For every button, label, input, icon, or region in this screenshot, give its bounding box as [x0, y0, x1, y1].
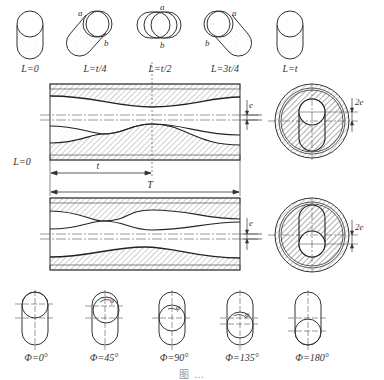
bottom-row-phi45 — [85, 290, 125, 350]
point-b-t4: b — [104, 38, 109, 48]
top-row-t2 — [137, 12, 181, 38]
upper-2e-label: 2e — [355, 97, 364, 107]
bottom-row-phi90 — [152, 290, 192, 350]
top-row-l0 — [17, 11, 43, 59]
top-label-t: L=t — [282, 63, 297, 74]
phi-symbol-45: φ — [110, 296, 114, 305]
bottom-label-phi90: Φ=90° — [160, 352, 188, 363]
phi-symbol-135: φ — [245, 310, 249, 319]
T-dim-label: T — [147, 179, 153, 190]
bottom-row-phi0 — [15, 290, 55, 350]
lower-2e-label: 2e — [355, 222, 364, 232]
point-a-3t4: a — [232, 8, 237, 18]
T-dimension — [51, 190, 239, 194]
figure-caption: 图 … — [179, 366, 205, 380]
lower-end-view — [268, 198, 358, 272]
bottom-label-phi180: Φ=180° — [295, 352, 328, 363]
point-b-t2: b — [160, 40, 165, 50]
diagram-canvas — [0, 0, 384, 380]
t-dimension — [51, 171, 151, 175]
point-a-t4: a — [78, 8, 83, 18]
upper-e-label: e — [249, 100, 253, 110]
top-label-l0: L=0 — [21, 63, 38, 74]
upper-end-view — [268, 84, 358, 160]
bottom-label-phi0: Φ=0° — [24, 352, 47, 363]
origin-label: L=0 — [13, 156, 30, 167]
upper-tube-section — [40, 84, 260, 160]
top-row-3t4 — [204, 11, 252, 56]
top-label-t4: L=t/4 — [84, 63, 107, 74]
point-a-t2: a — [160, 2, 165, 12]
bottom-row-phi135 — [220, 290, 260, 350]
top-row-t4 — [66, 11, 112, 56]
point-b-3t4: b — [205, 38, 210, 48]
top-label-t2: L=t/2 — [149, 63, 172, 74]
phi-symbol-90: φ — [176, 303, 180, 312]
lower-e-label: e — [249, 218, 253, 228]
top-label-3t4: L=3t/4 — [211, 63, 239, 74]
top-row-t — [277, 11, 303, 59]
t-dim-label: t — [97, 160, 100, 171]
bottom-row-phi180 — [288, 290, 328, 350]
bottom-label-phi45: Φ=45° — [90, 352, 118, 363]
lower-tube-section — [40, 198, 260, 270]
bottom-label-phi135: Φ=135° — [225, 352, 258, 363]
